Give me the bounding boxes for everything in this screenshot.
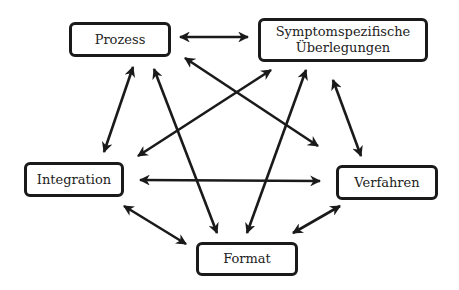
edge-symptom-format (247, 70, 306, 233)
node-verfahren-label: Verfahren (354, 175, 419, 191)
node-verfahren: Verfahren (336, 165, 438, 200)
node-format-label: Format (223, 251, 271, 267)
node-format: Format (196, 242, 298, 276)
node-symptomspezifische-ueberlegungen: Symptomspezifische Überlegungen (258, 18, 428, 62)
edge-integration-verfahren (140, 180, 320, 181)
node-integration: Integration (24, 162, 124, 197)
edge-verfahren-format (293, 206, 340, 233)
node-prozess: Prozess (69, 22, 171, 57)
edge-integration-format (124, 206, 186, 244)
node-integration-label: Integration (37, 172, 111, 188)
edge-prozess-verfahren (185, 58, 318, 146)
edge-symptom-verfahren (333, 80, 361, 156)
edge-prozess-integration (104, 67, 133, 152)
node-symptom-label-line1: Symptomspezifische (276, 24, 411, 40)
node-prozess-label: Prozess (95, 32, 146, 48)
edge-prozess-format (154, 69, 217, 233)
node-symptom-label-line2: Überlegungen (276, 40, 411, 56)
